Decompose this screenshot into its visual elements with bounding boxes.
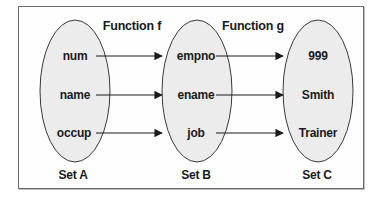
set-b-label: Set B (181, 168, 211, 182)
set-b-element-empno: empno (177, 49, 215, 63)
set-a-element-occup: occup (57, 126, 91, 140)
set-c-label: Set C (302, 168, 332, 182)
set-a-element-name: name (60, 88, 91, 102)
set-c-element-trainer: Trainer (299, 126, 338, 140)
set-c-element-999: 999 (308, 49, 327, 63)
set-a-element-num: num (63, 49, 88, 63)
function-g-label: Function g (222, 19, 284, 33)
function-f-label: Function f (103, 19, 161, 33)
set-b-element-ename: ename (177, 88, 214, 102)
set-a-label: Set A (58, 168, 87, 182)
set-b-element-job: job (187, 126, 204, 140)
set-c-element-smith: Smith (302, 88, 334, 102)
